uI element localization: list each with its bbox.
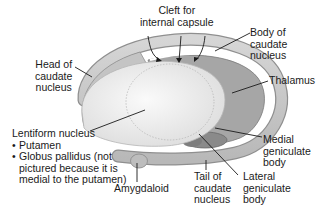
label-line: body — [263, 157, 311, 169]
label-medial-geniculate: Medial geniculate body — [263, 134, 311, 169]
label-line: medial to the putamen) — [19, 174, 126, 186]
label-line: Amygdaloid — [114, 182, 169, 194]
label-line: Medial — [263, 134, 311, 146]
label-line: Lateral — [243, 171, 291, 183]
lentiform-item-globus-pallidus: Globus pallidus (not pictured because it… — [12, 151, 126, 186]
label-line: Globus pallidus (not — [19, 151, 126, 163]
label-lentiform-nucleus: Lentiform nucleus Putamen Globus pallidu… — [12, 128, 126, 186]
label-line: Cleft for — [140, 5, 214, 17]
label-line: Putamen — [19, 139, 61, 151]
lentiform-list: Putamen Globus pallidus (not pictured be… — [12, 140, 126, 186]
label-line: nucleus — [194, 194, 231, 206]
label-line: Head of — [35, 59, 72, 71]
label-line: internal capsule — [140, 17, 214, 29]
label-body-caudate: Body of caudate nucleus — [250, 27, 287, 62]
basal-ganglia-diagram: Cleft for internal capsule Body of cauda… — [0, 0, 325, 213]
label-line: nucleus — [35, 82, 72, 94]
label-line: body — [243, 194, 291, 206]
label-head-caudate: Head of caudate nucleus — [35, 59, 72, 94]
label-lateral-geniculate: Lateral geniculate body — [243, 171, 291, 206]
label-line: nucleus — [250, 50, 287, 62]
label-line: Tail of — [194, 171, 231, 183]
label-line: Thalamus — [269, 74, 315, 86]
label-amygdaloid: Amygdaloid — [114, 183, 169, 195]
label-tail-caudate: Tail of caudate nucleus — [194, 171, 231, 206]
label-thalamus: Thalamus — [269, 75, 315, 87]
label-cleft-internal-capsule: Cleft for internal capsule — [140, 5, 214, 28]
label-line: Body of — [250, 27, 287, 39]
amygdaloid-shape — [131, 154, 148, 168]
